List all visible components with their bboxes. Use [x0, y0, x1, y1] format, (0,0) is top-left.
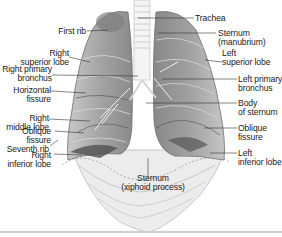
label-trachea: Trachea: [195, 14, 226, 23]
label-horizontal-fissure: Horizontal fissure: [13, 86, 51, 104]
label-right-oblique-fissure: Oblique fissure: [22, 127, 51, 145]
label-sternum-manubrium: Sternum (manubrium): [218, 29, 266, 47]
left-lung: [153, 11, 224, 160]
label-right-inferior-lobe: Right inferior lobe: [7, 151, 51, 169]
trachea-sternum: [130, 0, 156, 100]
label-left-primary-bronchus: Left primary bronchus: [238, 75, 282, 93]
label-left-superior-lobe: Left superior lobe: [222, 49, 270, 67]
label-right-primary-bronchus: Right primary bronchus: [2, 65, 52, 83]
label-first-rib: First rib: [58, 27, 86, 36]
bottom-rule: [0, 231, 282, 233]
label-sternum-xiphoid: Sternum (xiphoid process): [118, 174, 188, 192]
label-body-of-sternum: Body of sternum: [238, 99, 278, 117]
label-left-inferior-lobe: Left inferior lobe: [238, 149, 282, 167]
label-left-oblique-fissure: Oblique fissure: [238, 124, 267, 142]
lung-anatomy-figure: First rib Right superior lobe Right prim…: [0, 0, 282, 237]
